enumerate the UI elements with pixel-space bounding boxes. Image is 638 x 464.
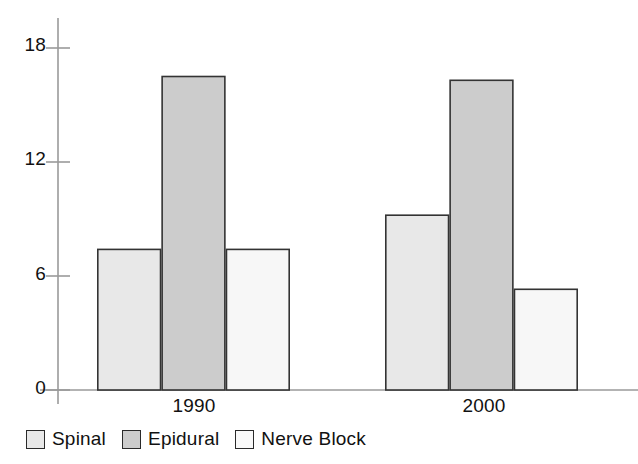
legend-item-epidural: Epidural [122, 429, 219, 449]
y-tick-label-0: 0 [8, 378, 46, 397]
legend-label: Epidural [148, 429, 219, 449]
bar-epidural-2000 [450, 80, 513, 390]
legend-swatch-icon [235, 430, 254, 449]
bar-series-group [98, 77, 577, 391]
legend-label: Spinal [52, 429, 106, 449]
legend-label: Nerve Block [261, 429, 366, 449]
x-tick-label-1990: 1990 [132, 396, 256, 416]
y-axis-labels: 18 12 6 0 [0, 0, 46, 410]
legend-swatch-icon [26, 430, 45, 449]
bar-spinal-1990 [98, 249, 161, 390]
legend-swatch-icon [122, 430, 141, 449]
y-tick-label-18: 18 [8, 35, 46, 54]
x-tick-label-2000: 2000 [422, 396, 546, 416]
bar-nerve-block-2000 [514, 289, 577, 390]
plot-area: 18 12 6 0 1990 2000 [0, 0, 638, 410]
chart-canvas [0, 0, 638, 410]
y-tick-label-12: 12 [8, 149, 46, 168]
bar-nerve-block-1990 [226, 249, 289, 390]
legend-item-nerve-block: Nerve Block [235, 429, 366, 449]
bar-spinal-2000 [386, 215, 449, 390]
chart-legend: SpinalEpiduralNerve Block [26, 429, 366, 449]
bar-epidural-1990 [162, 77, 225, 391]
legend-item-spinal: Spinal [26, 429, 106, 449]
bar-chart: 18 12 6 0 1990 2000 SpinalEpiduralNerve … [0, 0, 638, 464]
y-tick-label-6: 6 [8, 264, 46, 283]
